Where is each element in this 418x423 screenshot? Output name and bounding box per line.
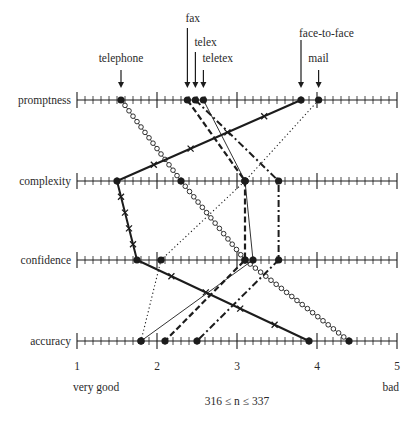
point-telephone-promptness	[117, 96, 124, 103]
label-telephone: telephone	[99, 52, 144, 88]
series-mail	[141, 100, 319, 341]
axis-label-confidence: confidence	[21, 254, 71, 266]
x-left-caption: very good	[73, 381, 120, 394]
point-telex-promptness	[192, 96, 199, 103]
axes-group: promptnesscomplexityconfidenceaccuracy	[18, 92, 397, 349]
point-telex-complexity	[275, 177, 282, 184]
point-fax-promptness	[184, 96, 191, 103]
x-tick-3: 3	[234, 360, 240, 372]
point-telex-confidence	[275, 256, 282, 263]
series-labels-group: telephonefaxtelexteletexface-to-facemail	[99, 12, 354, 88]
svg-text:mail: mail	[308, 52, 328, 64]
x-right-caption: bad	[382, 381, 399, 393]
x-axis-labels-group: 12345very goodbad316 ≤ n ≤ 337	[73, 360, 400, 407]
axis-label-complexity: complexity	[19, 175, 71, 188]
axis-confidence: confidence	[21, 252, 397, 268]
point-mail-complexity	[241, 177, 248, 184]
label-teletex: teletex	[200, 52, 233, 88]
axis-complexity: complexity	[19, 173, 397, 189]
point-telephone-complexity	[177, 177, 184, 184]
x-tick-5: 5	[394, 360, 400, 372]
x-tick-1: 1	[74, 360, 80, 372]
x-tick-2: 2	[154, 360, 160, 372]
point-teletex-promptness	[200, 96, 207, 103]
sample-size-note: 316 ≤ n ≤ 337	[205, 395, 270, 407]
point-mail-accuracy	[137, 337, 144, 344]
point-telex-accuracy	[193, 337, 200, 344]
parallel-axis-chart: promptnesscomplexityconfidenceaccuracy t…	[0, 0, 418, 423]
points-group	[113, 96, 352, 344]
series-teletex	[141, 100, 253, 341]
point-teletex-confidence	[249, 256, 256, 263]
axis-promptness: promptness	[18, 92, 397, 108]
point-mail-confidence	[157, 256, 164, 263]
point-face-to-face-complexity	[113, 177, 120, 184]
point-fax-accuracy	[161, 337, 168, 344]
point-face-to-face-promptness	[297, 96, 304, 103]
series-telex	[195, 100, 278, 341]
series-group	[117, 100, 349, 341]
axis-label-promptness: promptness	[18, 94, 72, 107]
point-telephone-accuracy	[345, 337, 352, 344]
label-mail: mail	[308, 52, 328, 88]
point-face-to-face-accuracy	[305, 337, 312, 344]
svg-text:teletex: teletex	[202, 52, 233, 64]
point-mail-promptness	[315, 96, 322, 103]
svg-text:fax: fax	[185, 12, 200, 24]
svg-text:face-to-face: face-to-face	[299, 27, 354, 39]
label-fax: fax	[184, 12, 200, 88]
x-tick-4: 4	[314, 360, 320, 372]
point-face-to-face-confidence	[133, 256, 140, 263]
axis-label-accuracy: accuracy	[30, 335, 71, 348]
svg-text:telephone: telephone	[99, 52, 144, 65]
svg-text:telex: telex	[194, 36, 217, 48]
point-fax-confidence	[241, 256, 248, 263]
series-telephone	[121, 100, 349, 341]
